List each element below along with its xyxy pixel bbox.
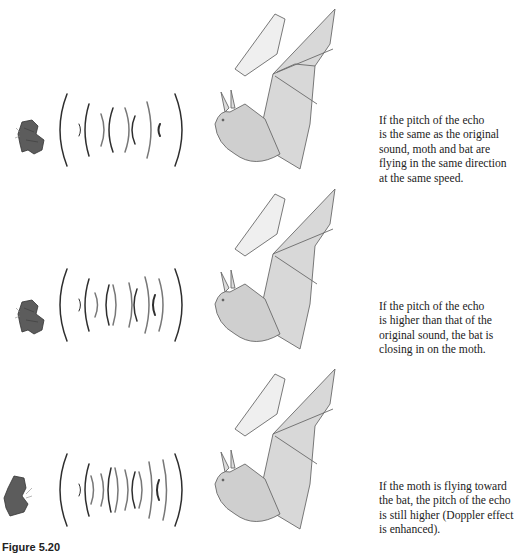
- sound-waves: [55, 90, 185, 170]
- figure-label: Figure 5.20: [2, 541, 60, 553]
- moth-icon: [2, 474, 36, 518]
- sound-waves: [55, 450, 185, 530]
- panel-higher-pitch: If the pitch of the echo is higher than …: [0, 180, 521, 365]
- moth-icon: [14, 298, 48, 338]
- bat-icon: [205, 4, 370, 179]
- bat-icon: [205, 364, 370, 539]
- bat-icon: [205, 184, 370, 359]
- panel-description: If the pitch of the echo is higher than …: [379, 300, 521, 358]
- panel-description: If the moth is flying toward the bat, th…: [379, 480, 521, 538]
- panel-description: If the pitch of the echo is the same as …: [379, 114, 521, 186]
- moth-icon: [14, 118, 48, 158]
- panel-same-pitch: If the pitch of the echo is the same as …: [0, 0, 521, 185]
- panel-still-higher-pitch: If the moth is flying toward the bat, th…: [0, 360, 521, 545]
- sound-waves: [55, 265, 185, 345]
